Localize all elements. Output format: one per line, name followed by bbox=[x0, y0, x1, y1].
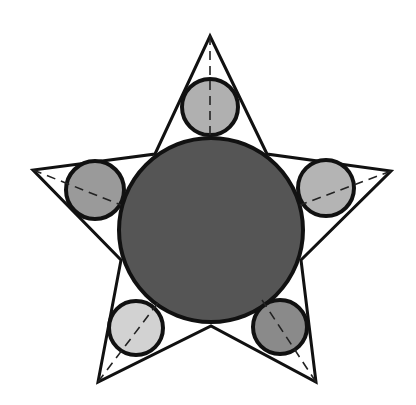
circle-left bbox=[66, 161, 124, 219]
star-diagram bbox=[0, 0, 416, 405]
center-circle bbox=[119, 138, 303, 322]
circle-bottom-left bbox=[109, 301, 163, 355]
